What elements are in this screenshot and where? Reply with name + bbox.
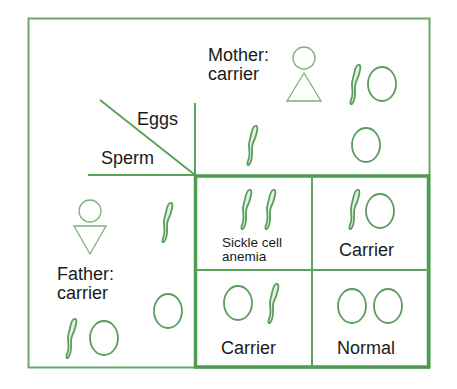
normal-cell-icon	[352, 128, 380, 162]
sickle-cell-icon	[241, 190, 251, 229]
sickle-cell-icon	[268, 284, 278, 323]
cell-label-normal: Normal	[337, 339, 395, 358]
male-symbol-icon	[74, 200, 106, 254]
mother-label-line2: carrier	[208, 65, 269, 84]
cell-label-carrier-bottom: Carrier	[221, 339, 276, 358]
sickle-cell-icon	[247, 126, 257, 165]
eggs-header-label: Eggs	[137, 110, 178, 129]
normal-cell-icon	[224, 286, 252, 320]
sickle-cell-icon	[349, 190, 359, 229]
female-symbol-icon	[287, 47, 321, 101]
normal-cell-icon	[368, 67, 396, 101]
normal-cell-icon	[154, 294, 182, 328]
normal-cell-icon	[338, 289, 366, 323]
sickle-cell-icon	[162, 203, 172, 242]
cell-label-carrier-top: Carrier	[339, 241, 394, 260]
normal-cell-icon	[366, 194, 394, 228]
cell-label-line2: anemia	[222, 250, 282, 264]
father-label: Father: carrier	[57, 265, 114, 303]
cell-label-sickle-cell-anemia: Sickle cell anemia	[222, 236, 282, 263]
normal-cell-icon	[90, 321, 118, 355]
mother-label-line1: Mother:	[208, 46, 269, 65]
father-label-line2: carrier	[57, 284, 114, 303]
sickle-cell-icon	[66, 319, 76, 358]
sickle-cell-icon	[265, 190, 275, 229]
mother-label: Mother: carrier	[208, 46, 269, 84]
sperm-header-label: Sperm	[101, 149, 154, 168]
normal-cell-icon	[374, 289, 402, 323]
sickle-cell-icon	[350, 65, 360, 104]
cell-label-line1: Sickle cell	[222, 236, 282, 250]
father-label-line1: Father:	[57, 265, 114, 284]
